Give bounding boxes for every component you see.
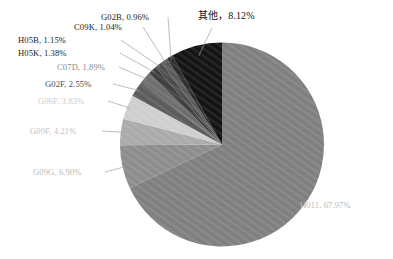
- pie-label-g06f: G06F, 3.83%: [38, 97, 85, 106]
- leader-line-g09f: [102, 131, 124, 132]
- leader-line-g02f: [113, 84, 139, 91]
- pie-label-g02b: G02B, 0.96%: [101, 13, 149, 22]
- pie-chart-figure: H011, 67.97% G09G, 6.90% G09F, 4.21% G06…: [0, 0, 393, 259]
- pie-label-h011: H011, 67.97%: [300, 201, 351, 210]
- pie-label-other: 其他，8.12%: [198, 11, 255, 22]
- pie-label-c09k: C09K, 1.04%: [74, 23, 122, 32]
- leader-line-g06f: [108, 101, 130, 108]
- pie-label-g02f: G02F, 2.55%: [45, 80, 92, 89]
- pie-label-g09g: G09G, 6.90%: [33, 168, 82, 177]
- pie-label-c07d: C07D, 1.89%: [57, 63, 105, 72]
- leader-line-g09g: [105, 167, 126, 172]
- pie-slice-group: [120, 42, 324, 246]
- pie-label-g09f: G09F, 4.21%: [30, 127, 77, 136]
- pie-label-h05b: H05B, 1.15%: [18, 36, 66, 45]
- leader-line-c07d: [119, 67, 147, 80]
- leader-line-h05k: [120, 53, 154, 72]
- pie-label-h05k: H05K, 1.38%: [18, 49, 67, 58]
- leader-line-g02b: [168, 17, 171, 60]
- leader-line-h05b: [121, 40, 160, 67]
